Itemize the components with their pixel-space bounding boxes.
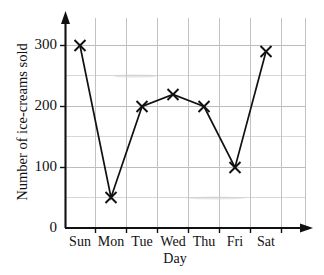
x-tick-label-tue: Tue [131, 234, 152, 249]
y-tick-label-200: 200 [35, 97, 58, 113]
x-tick-label-sun: Sun [69, 234, 91, 249]
x-tick-label-sat: Sat [257, 234, 275, 249]
x-tick-label-fri: Fri [227, 234, 243, 249]
y-tick-label-300: 300 [35, 36, 58, 52]
y-tick-label-100: 100 [35, 158, 58, 174]
x-tick-label-mon: Mon [98, 234, 124, 249]
chart-canvas: 0 100 200 300 [0, 0, 324, 275]
plot-background [65, 18, 306, 228]
y-axis-title: Number of ice-creams sold [14, 43, 30, 201]
y-tick-label-0: 0 [50, 219, 58, 235]
x-axis-title: Day [163, 251, 186, 266]
line-chart-figure: 0 100 200 300 [0, 0, 324, 275]
x-tick-label-thu: Thu [193, 234, 216, 249]
x-tick-label-wed: Wed [160, 234, 185, 249]
